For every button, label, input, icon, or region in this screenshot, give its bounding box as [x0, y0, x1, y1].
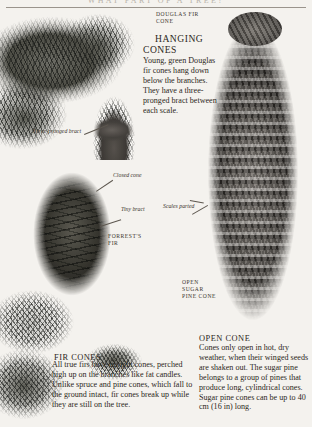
encyclopedia-page: WHAT PART OF A TREE? DOUGLAS FIR CONE Th…: [0, 0, 312, 427]
label-open-sugar-pine-cone: OPEN SUGAR PINE CONE: [182, 279, 220, 300]
sugar-pine-cone-tip: [228, 12, 282, 46]
running-head-rule: [6, 7, 306, 8]
douglas-fir-branch-photo: [0, 10, 146, 160]
running-head: WHAT PART OF A TREE?: [0, 0, 312, 9]
hanging-cones-heading: HANGING CONES: [155, 33, 203, 55]
label-three-pronged-bract: Three-pronged bract: [30, 128, 84, 135]
label-tiny-bract: Tiny bract: [121, 206, 147, 213]
open-cone-body: Cones only open in hot, dry weather, whe…: [199, 343, 312, 412]
hanging-cones-heading-line2: CONES: [143, 44, 203, 55]
hanging-cones-heading-line1: HANGING: [155, 33, 203, 44]
label-douglas-fir-cone: DOUGLAS FIR CONE: [156, 11, 208, 25]
label-scales-parted: Scales parted: [163, 203, 195, 210]
running-head-text: WHAT PART OF A TREE?: [0, 0, 312, 5]
label-forrests-fir: FORREST'S FIR: [108, 233, 152, 247]
label-closed-cone: Closed cone: [113, 172, 147, 179]
hanging-cones-body: Young, green Douglas fir cones hang down…: [143, 56, 217, 115]
fir-cones-body: All true firs have upright cones, perche…: [52, 360, 196, 410]
